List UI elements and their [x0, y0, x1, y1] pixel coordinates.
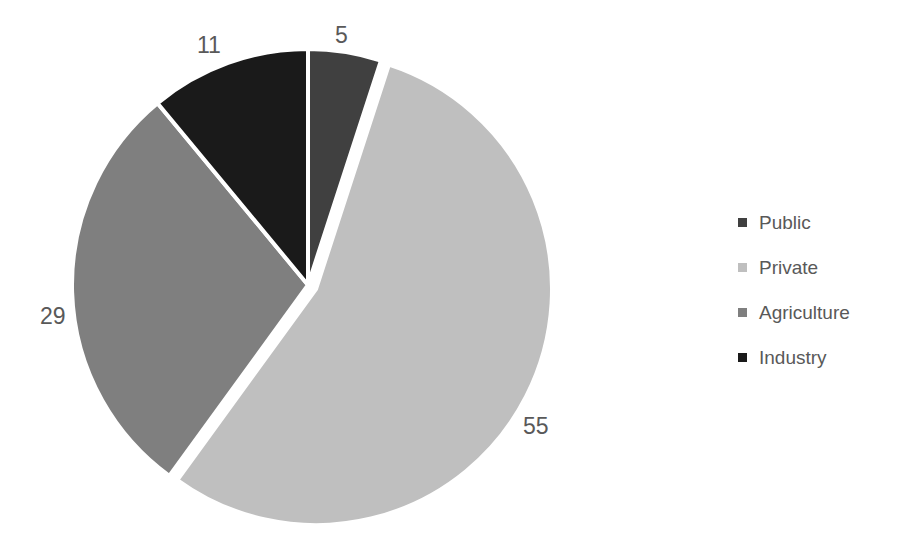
- pie-slice-group: [72, 49, 552, 525]
- chart-legend: PublicPrivateAgricultureIndustry: [738, 200, 903, 380]
- data-label-public: 5: [335, 24, 348, 47]
- legend-item-label: Private: [759, 257, 818, 279]
- legend-swatch-icon: [738, 353, 747, 362]
- data-label-agriculture: 29: [40, 305, 66, 328]
- legend-item-industry[interactable]: Industry: [738, 335, 903, 380]
- legend-swatch-icon: [738, 218, 747, 227]
- legend-item-label: Agriculture: [759, 302, 850, 324]
- legend-item-public[interactable]: Public: [738, 200, 903, 245]
- legend-swatch-icon: [738, 308, 747, 317]
- legend-swatch-icon: [738, 263, 747, 272]
- data-label-private: 55: [523, 415, 549, 438]
- legend-item-label: Public: [759, 212, 811, 234]
- legend-item-label: Industry: [759, 347, 827, 369]
- data-label-industry: 11: [197, 34, 221, 57]
- pie-chart-figure: 5 55 29 11 PublicPrivateAgricultureIndus…: [0, 0, 911, 551]
- legend-item-agriculture[interactable]: Agriculture: [738, 290, 903, 335]
- legend-item-private[interactable]: Private: [738, 245, 903, 290]
